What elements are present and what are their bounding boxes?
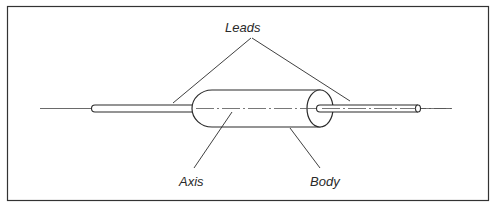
leads-label: Leads <box>225 20 260 35</box>
body-label: Body <box>310 174 340 189</box>
axis-label: Axis <box>179 174 204 189</box>
body-leader <box>290 128 320 168</box>
left-lead <box>92 105 194 112</box>
